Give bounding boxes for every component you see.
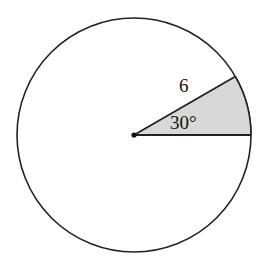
radius-label: 6 <box>179 75 189 96</box>
angle-label: 30° <box>170 112 197 133</box>
center-point <box>131 132 136 137</box>
circle-diagram: 6 30° <box>0 0 260 265</box>
